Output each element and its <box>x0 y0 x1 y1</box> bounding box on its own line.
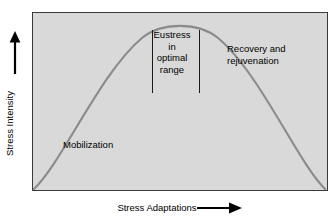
arrow-right-icon <box>197 202 243 214</box>
recovery-line-2: rejuvenation <box>227 55 286 67</box>
x-axis-label: Stress Adaptations <box>117 202 196 213</box>
optimal-range-bracket-right <box>199 30 200 93</box>
mobilization-annotation: Mobilization <box>63 139 113 151</box>
arrow-up-icon <box>6 30 24 74</box>
eustress-line-4: range <box>146 64 198 76</box>
stress-curve-figure: Stress Intensity Eustress in optimal ran… <box>0 0 336 221</box>
y-axis: Stress Intensity <box>0 0 32 221</box>
y-axis-label: Stress Intensity <box>4 74 15 174</box>
x-axis: Stress Adaptations <box>32 194 328 221</box>
plot-panel: Eustress in optimal range Mobilization R… <box>32 12 328 191</box>
eustress-line-2: in <box>146 41 198 53</box>
eustress-line-1: Eustress <box>146 29 198 41</box>
recovery-annotation: Recovery and rejuvenation <box>227 43 286 66</box>
recovery-line-1: Recovery and <box>227 43 286 55</box>
eustress-annotation: Eustress in optimal range <box>146 29 198 75</box>
eustress-line-3: optimal <box>146 52 198 64</box>
